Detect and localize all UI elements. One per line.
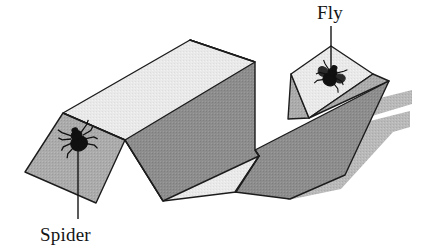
folded-sheet-group: [25, 40, 389, 203]
fly-label: Fly: [317, 2, 343, 23]
spider-label: Spider: [40, 224, 91, 245]
figure-container: Spider Fly: [0, 0, 422, 248]
folded-surface-illustration: Spider Fly: [0, 0, 422, 248]
